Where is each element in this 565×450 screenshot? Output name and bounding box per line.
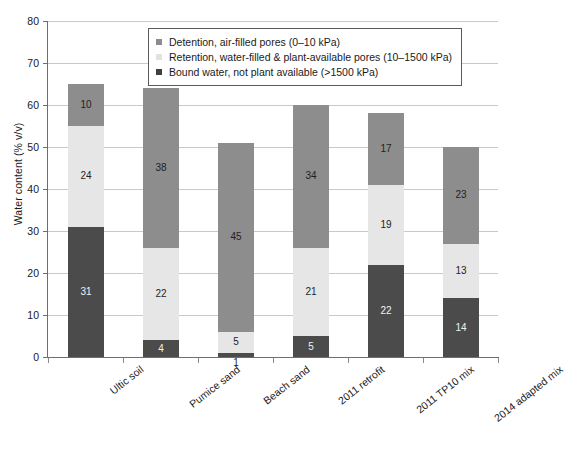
y-tick-label: 80 (12, 16, 39, 27)
bar-segment-bound[interactable]: 31 (68, 227, 104, 357)
legend-label: Bound water, not plant available (>1500 … (169, 66, 378, 78)
x-axis-label: 2014 adapted mix (492, 363, 565, 424)
y-tick-label: 50 (12, 142, 39, 153)
bar-value-label: 4 (158, 344, 164, 354)
legend-item[interactable]: Bound water, not plant available (>1500 … (156, 64, 452, 79)
x-tick-mark (273, 358, 274, 363)
y-tick-label: 60 (12, 100, 39, 111)
bar-segment-detention[interactable]: 17 (368, 113, 404, 184)
x-axis-label: Pumice sand (187, 363, 242, 410)
gridline (48, 273, 498, 274)
y-tick-label: 30 (12, 226, 39, 237)
bar-value-label: 22 (380, 306, 391, 316)
bar-segment-retention[interactable]: 13 (443, 244, 479, 299)
x-axis-label: Beach sand (261, 363, 312, 407)
y-tick-label: 0 (12, 352, 39, 363)
bar-segment-retention[interactable]: 5 (218, 332, 254, 353)
bar-segment-bound[interactable]: 4 (143, 340, 179, 357)
bar-value-label: 13 (455, 266, 466, 276)
x-tick-mark (498, 358, 499, 363)
x-axis-label: 2011 TP10 mix (414, 363, 476, 415)
bar-segment-bound[interactable]: 22 (368, 265, 404, 357)
bar-value-label: 38 (155, 163, 166, 173)
y-axis-line (47, 21, 48, 358)
legend-item[interactable]: Detention, air-filled pores (0–10 kPa) (156, 34, 452, 49)
bar-segment-detention[interactable]: 34 (293, 105, 329, 248)
bar-value-label: 34 (305, 171, 316, 181)
bar-segment-retention[interactable]: 24 (68, 126, 104, 227)
gridline (48, 21, 498, 22)
gridline (48, 105, 498, 106)
legend-swatch-bound-icon (156, 69, 162, 75)
legend-label: Retention, water-filled & plant-availabl… (169, 51, 452, 63)
legend-swatch-detention-icon (156, 39, 162, 45)
bar-value-label: 23 (455, 190, 466, 200)
gridline (48, 231, 498, 232)
bar-segment-detention[interactable]: 10 (68, 84, 104, 126)
y-tick-label: 10 (12, 310, 39, 321)
bar-value-label: 31 (80, 287, 91, 297)
x-axis-label: 2011 retrofit (336, 363, 387, 406)
bar-segment-retention[interactable]: 21 (293, 248, 329, 336)
bar-group[interactable]: 312410 (68, 21, 104, 357)
bar-segment-retention[interactable]: 22 (143, 248, 179, 340)
bar-value-label: 24 (80, 171, 91, 181)
chart-legend: Detention, air-filled pores (0–10 kPa)Re… (148, 28, 462, 86)
bar-value-label: 21 (305, 287, 316, 297)
gridline (48, 315, 498, 316)
x-tick-mark (348, 358, 349, 363)
bar-value-label: 10 (80, 100, 91, 110)
x-tick-mark (423, 358, 424, 363)
bar-value-label: 17 (380, 144, 391, 154)
legend-label: Detention, air-filled pores (0–10 kPa) (169, 36, 340, 48)
x-tick-mark (123, 358, 124, 363)
x-axis-line (47, 357, 499, 358)
bar-segment-detention[interactable]: 23 (443, 147, 479, 244)
x-tick-mark (48, 358, 49, 363)
x-tick-mark (198, 358, 199, 363)
bar-value-label: 19 (380, 220, 391, 230)
y-tick-label: 20 (12, 268, 39, 279)
bar-value-label: 5 (233, 337, 239, 347)
bar-segment-bound[interactable]: 5 (293, 336, 329, 357)
bar-segment-detention[interactable]: 38 (143, 88, 179, 248)
bar-value-label: 45 (230, 232, 241, 242)
y-tick-label: 70 (12, 58, 39, 69)
bar-value-label: 22 (155, 289, 166, 299)
y-axis-title: Water content (% v/v) (12, 109, 24, 239)
bar-segment-retention[interactable]: 19 (368, 185, 404, 265)
x-axis-label: Ultic soil (107, 363, 145, 397)
bar-segment-detention[interactable]: 45 (218, 143, 254, 332)
bar-value-label: 5 (308, 342, 314, 352)
bar-segment-bound[interactable] (218, 353, 254, 357)
gridline (48, 147, 498, 148)
legend-swatch-retention-icon (156, 54, 162, 60)
bar-value-label: 14 (455, 323, 466, 333)
gridline (48, 189, 498, 190)
y-tick-label: 40 (12, 184, 39, 195)
bar-segment-bound[interactable]: 14 (443, 298, 479, 357)
legend-item[interactable]: Retention, water-filled & plant-availabl… (156, 49, 452, 64)
